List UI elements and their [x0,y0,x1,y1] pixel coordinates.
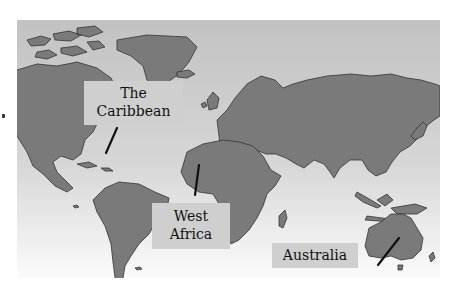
label-west-africa-line2: Africa [152,225,230,243]
label-caribbean-line1: The [84,84,183,102]
label-west-africa-line1: West [152,207,230,225]
label-australia: Australia [272,243,358,268]
label-west-africa: West Africa [152,203,230,249]
label-australia-text: Australia [283,247,347,263]
stray-dot [2,114,5,118]
label-caribbean-line2: Caribbean [84,102,183,120]
tasmania [398,265,403,270]
label-caribbean: The Caribbean [84,81,183,125]
